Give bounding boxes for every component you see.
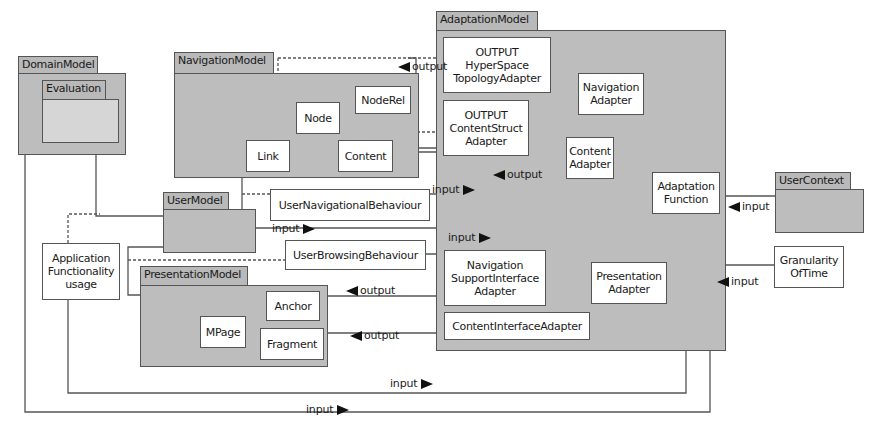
content-class[interactable]: Content (338, 140, 393, 172)
contentstruct-label-2: ContentStruct (450, 122, 523, 135)
arrow-left-icon (350, 331, 362, 341)
granularity-of-time[interactable]: Granularity OfTime (774, 246, 844, 288)
arrow-left-icon (493, 170, 505, 180)
contentadapter-label-2: Adapter (569, 158, 611, 171)
node-label: Node (304, 112, 332, 125)
arrow-right-icon (421, 379, 433, 389)
user-context-tab: UserContext (775, 172, 851, 190)
anchor-class[interactable]: Anchor (266, 291, 320, 321)
adaptfn-label-2: Function (664, 193, 708, 206)
presentation-model-tab: PresentationModel (140, 266, 248, 286)
navigation-adapter[interactable]: Navigation Adapter (578, 73, 644, 115)
user-navigational-behaviour[interactable]: UserNavigationalBehaviour (270, 189, 430, 221)
content-interface-adapter[interactable]: ContentInterfaceAdapter (444, 312, 590, 340)
input-label-unb: input (432, 183, 475, 196)
navadapter-label-2: Adapter (590, 94, 632, 107)
adaptation-function[interactable]: Adaptation Function (652, 172, 720, 214)
navadapter-label-1: Navigation (583, 81, 639, 94)
input-label-gran: input (717, 275, 758, 288)
arrow-right-icon (337, 405, 349, 415)
arrow-right-icon (479, 233, 491, 243)
contentstruct-adapter[interactable]: OUTPUT ContentStruct Adapter (443, 100, 529, 156)
contentadapter-label-1: Content (569, 145, 611, 158)
mpage-label: MPage (206, 326, 241, 339)
input-label-ubb: input (448, 231, 491, 244)
appfunc-label-1: Application (52, 252, 110, 265)
unb-label: UserNavigationalBehaviour (279, 199, 422, 212)
presadapter-label-2: Adapter (608, 283, 650, 296)
contentstruct-label-1: OUTPUT (464, 109, 507, 122)
hyperspace-label-2: HyperSpace (465, 59, 529, 72)
arrow-left-icon (728, 202, 740, 212)
navsupport-label-1: Navigation (467, 259, 523, 272)
navigation-model-tab: NavigationModel (174, 52, 274, 74)
fragment-label: Fragment (267, 338, 317, 351)
domain-model-tab: DomainModel (18, 56, 98, 74)
hyperspace-label-1: OUTPUT (475, 46, 518, 59)
granularity-label-2: OfTime (790, 267, 828, 280)
user-context-package[interactable] (775, 189, 864, 233)
output-label-content: output (493, 168, 542, 181)
navsupport-label-3: Adapter (474, 285, 516, 298)
output-label-top: output (398, 60, 447, 73)
application-functionality-usage[interactable]: Application Functionality usage (42, 243, 120, 300)
granularity-label-1: Granularity (780, 254, 839, 267)
output-label-fragment: output (350, 329, 399, 342)
adaptfn-label-1: Adaptation (657, 180, 714, 193)
appfunc-label-3: usage (65, 278, 97, 291)
navigation-supportinterface-adapter[interactable]: Navigation SupportInterface Adapter (444, 250, 546, 306)
input-label-bottom2: input (306, 403, 349, 416)
noderel-class[interactable]: NodeRel (355, 86, 411, 114)
presentation-adapter[interactable]: Presentation Adapter (591, 262, 667, 304)
content-label: Content (345, 150, 387, 163)
mpage-class[interactable]: MPage (200, 316, 246, 348)
content-adapter[interactable]: Content Adapter (566, 137, 614, 179)
arrow-right-icon (463, 185, 475, 195)
link-class[interactable]: Link (246, 140, 290, 172)
noderel-label: NodeRel (361, 94, 405, 107)
input-label-um: input (272, 222, 315, 235)
presadapter-label-1: Presentation (596, 270, 661, 283)
user-browsing-behaviour[interactable]: UserBrowsingBehaviour (285, 240, 426, 270)
content-interface-adapter-label: ContentInterfaceAdapter (452, 320, 582, 333)
arrow-right-icon (303, 224, 315, 234)
navsupport-label-2: SupportInterface (451, 272, 539, 285)
user-model-tab: UserModel (163, 192, 229, 210)
contentstruct-label-3: Adapter (465, 135, 507, 148)
fragment-class[interactable]: Fragment (260, 328, 324, 360)
input-label-uc: input (728, 200, 769, 213)
link-label: Link (257, 150, 278, 163)
arrow-left-icon (346, 286, 358, 296)
adaptation-model-tab: AdaptationModel (436, 11, 538, 31)
evaluation-tab: Evaluation (42, 80, 106, 100)
hyperspace-label-3: TopologyAdapter (453, 72, 541, 85)
anchor-label: Anchor (275, 300, 312, 313)
hyperspace-topology-adapter[interactable]: OUTPUT HyperSpace TopologyAdapter (443, 37, 551, 93)
appfunc-label-2: Functionality (48, 265, 115, 278)
arrow-left-icon (717, 277, 729, 287)
ubb-label: UserBrowsingBehaviour (293, 249, 418, 262)
user-model-package[interactable] (163, 209, 256, 253)
evaluation-package[interactable] (42, 99, 119, 143)
arrow-left-icon (398, 62, 410, 72)
node-class[interactable]: Node (296, 102, 340, 134)
output-label-anchor: output (346, 284, 395, 297)
input-label-bottom1: input (390, 377, 433, 390)
